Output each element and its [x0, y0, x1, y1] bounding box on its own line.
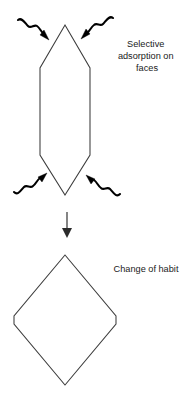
crystal-habit-diagram: Selective adsorption on faces Change of … — [0, 0, 194, 396]
selective-adsorption-line-2: adsorption on — [118, 51, 174, 61]
selective-adsorption-line-1: Selective — [127, 39, 164, 49]
selective-adsorption-line-3: faces — [136, 63, 158, 73]
diagram-canvas: Selective adsorption on faces Change of … — [0, 0, 194, 396]
change-of-habit-label: Change of habit — [114, 264, 179, 274]
